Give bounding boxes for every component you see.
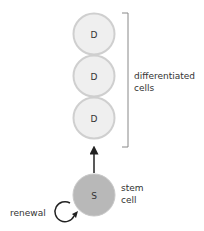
stem-label-line1: stem: [121, 183, 144, 193]
differentiated-label-line1: differentiated: [134, 71, 195, 81]
differentiated-label-line2: cells: [134, 83, 154, 93]
renewal-label: renewal: [10, 208, 46, 218]
stem-label-line2: cell: [121, 195, 137, 205]
stem-cell-diagram: D D D differentiated cells S stem cell r…: [0, 0, 204, 231]
differentiated-cell: D: [74, 98, 115, 139]
cell-letter: D: [91, 30, 98, 40]
renewal-arrow-icon: [55, 202, 74, 222]
differentiated-cell: D: [74, 14, 115, 55]
cell-letter: D: [91, 114, 98, 124]
cell-letter: S: [91, 191, 97, 201]
stem-cell: S: [73, 174, 115, 216]
bracket: [122, 13, 128, 147]
cell-letter: D: [91, 72, 98, 82]
differentiated-cell: D: [74, 56, 115, 97]
